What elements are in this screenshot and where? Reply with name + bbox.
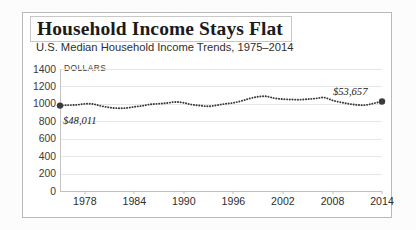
x-axis-tick-labels: 1978198419901996200220082014: [60, 193, 382, 209]
chart-title-box: Household Income Stays Flat: [30, 16, 292, 42]
x-axis-tick-mark: [84, 191, 85, 194]
x-axis-tick-label: 1984: [123, 195, 147, 207]
x-axis-tick-mark: [382, 191, 383, 194]
x-axis-tick-label: 1990: [172, 195, 196, 207]
page-title: Household Income Stays Flat: [37, 18, 283, 39]
series-line: [60, 96, 382, 108]
y-axis-tick-label: 800: [12, 116, 56, 127]
endpoint-marker: [57, 102, 63, 108]
chart-subtitle: U.S. Median Household Income Trends, 197…: [36, 41, 293, 54]
y-axis-tick-label: 200: [12, 168, 56, 179]
y-axis-tick-label: 0: [12, 186, 56, 197]
x-axis-tick-label: 1978: [73, 195, 97, 207]
x-axis-tick-label: 1996: [222, 195, 246, 207]
x-axis-tick-mark: [134, 191, 135, 194]
end-value-label: $53,657: [333, 86, 367, 98]
y-axis-tick-label: 400: [12, 151, 56, 162]
x-axis-tick-mark: [183, 191, 184, 194]
y-axis-tick-label: 600: [12, 133, 56, 144]
x-axis-tick-mark: [282, 191, 283, 194]
x-axis-line: [60, 191, 382, 192]
y-axis-tick-labels: 0200400600800100012001400: [6, 69, 56, 191]
x-axis-tick-mark: [332, 191, 333, 194]
y-axis-tick-label: 1200: [12, 81, 56, 92]
x-axis-tick-label: 2014: [370, 195, 394, 207]
x-axis-tick-label: 2002: [271, 195, 295, 207]
y-axis-tick-label: 1400: [12, 64, 56, 75]
start-value-label: $48,011: [63, 115, 97, 127]
y-axis-tick-label: 1000: [12, 98, 56, 109]
endpoint-marker: [379, 98, 385, 104]
chart-figure: Household Income Stays Flat U.S. Median …: [0, 0, 416, 230]
x-axis-tick-label: 2008: [321, 195, 345, 207]
x-axis-tick-mark: [233, 191, 234, 194]
